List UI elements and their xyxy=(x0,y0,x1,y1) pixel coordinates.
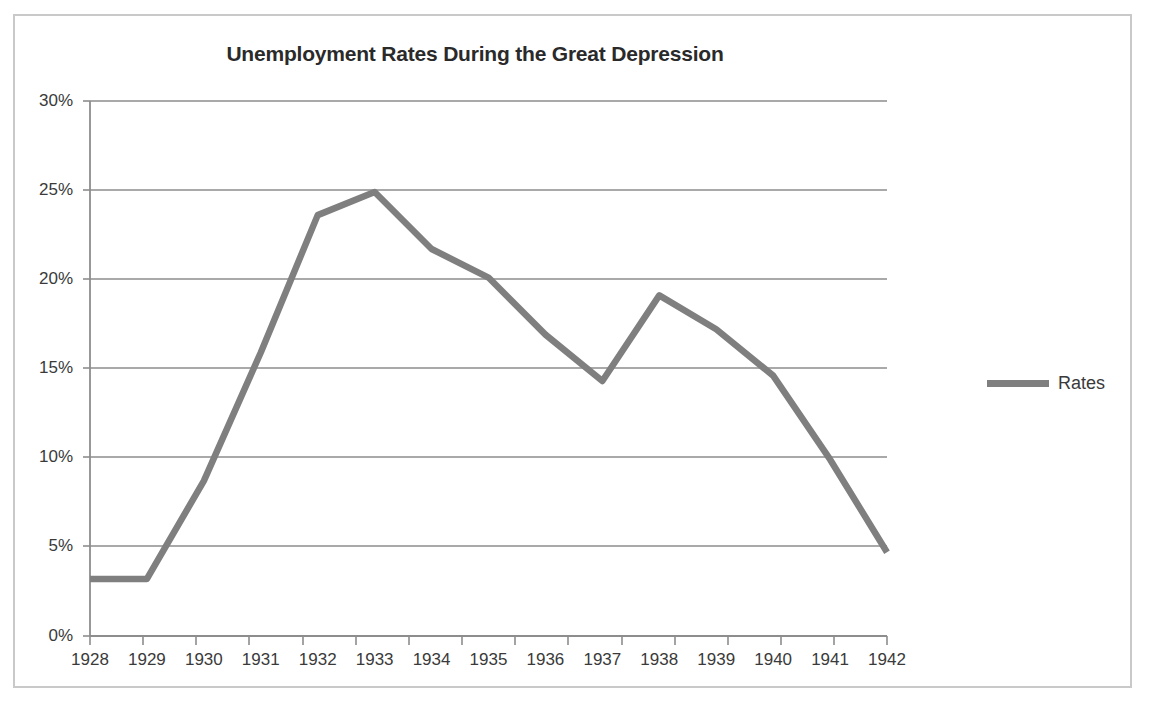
legend-label-rates: Rates xyxy=(1058,373,1105,394)
x-tick-label-1935: 1935 xyxy=(459,650,519,670)
legend-swatch-rates xyxy=(987,380,1049,387)
x-tick-label-1938: 1938 xyxy=(629,650,689,670)
legend: Rates xyxy=(987,373,1105,394)
x-tick-label-1933: 1933 xyxy=(345,650,405,670)
x-tick-label-1934: 1934 xyxy=(402,650,462,670)
x-tick-label-1936: 1936 xyxy=(515,650,575,670)
x-tick-label-1939: 1939 xyxy=(686,650,746,670)
plot-area xyxy=(15,16,1134,690)
x-tick-label-1928: 1928 xyxy=(60,650,120,670)
x-tick-label-1932: 1932 xyxy=(288,650,348,670)
x-tick-label-1929: 1929 xyxy=(117,650,177,670)
y-tick-label-30: 30% xyxy=(15,91,73,111)
y-axis-line xyxy=(83,101,90,636)
x-tick-label-1941: 1941 xyxy=(800,650,860,670)
x-tick-label-1931: 1931 xyxy=(231,650,291,670)
y-tick-label-25: 25% xyxy=(15,180,73,200)
x-tick-label-1930: 1930 xyxy=(174,650,234,670)
y-tick-label-5: 5% xyxy=(15,536,73,556)
y-tick-label-10: 10% xyxy=(15,447,73,467)
x-axis-line xyxy=(90,636,887,645)
x-tick-label-1940: 1940 xyxy=(743,650,803,670)
x-tick-label-1942: 1942 xyxy=(857,650,917,670)
y-tick-label-0: 0% xyxy=(15,626,73,646)
chart-frame: Unemployment Rates During the Great Depr… xyxy=(13,14,1132,688)
data-series-rates xyxy=(90,192,887,579)
y-tick-label-15: 15% xyxy=(15,358,73,378)
gridlines xyxy=(90,101,887,546)
x-tick-label-1937: 1937 xyxy=(572,650,632,670)
y-tick-label-20: 20% xyxy=(15,269,73,289)
